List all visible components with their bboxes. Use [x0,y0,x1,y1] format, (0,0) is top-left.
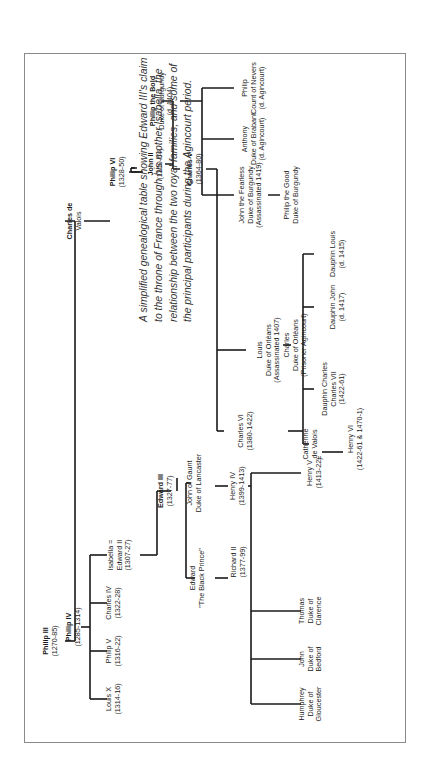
person-louis-x: Louis X (1314-16) [105,683,122,714]
person-charles-vi: Charles VI (1380-1422) [237,411,254,450]
person-philip-vi: Philip VI (1328-50) [109,156,126,187]
person-john-of-gaunt: John of Gaunt Duke of Lancaster [186,454,203,512]
person-john-the-fearless: John the Fearless Duke of Burgundy (Assa… [238,162,264,228]
genealogy-diagram: Philip III (1270-85) Philip IV (1285-131… [24,53,406,743]
person-catherine-de-valois: Catherine de Valois [302,428,319,459]
person-isabella-edward-ii: Isabella = Edward II (1307-27) [107,539,133,570]
person-philip-nevers: Philip Count of Nevers (d. Agincourt) [241,62,267,114]
person-charles-orleans: Charles Duke of Orléans (Prisoner Aginco… [283,313,309,377]
person-louis-orleans: Louis Duke of Orléans (Assassinated 1407… [256,317,282,383]
person-philip-the-good: Philip the Good Duke of Burgundy [283,166,300,224]
person-charles-de-valois: Charles de Valois [66,203,83,240]
person-black-prince: Edward "The Black Prince" [189,548,206,607]
person-dauphin-charles: Dauphin Charles Charles VII (1422-61) [321,362,347,416]
diagram-caption: A simplified genealogical table showing … [137,52,196,322]
person-anthony-brabant: Anthony Duke of Brabant (d. Agincourt) [241,113,267,165]
person-henry-iv: Henry IV (1399-1413) [229,466,246,505]
person-edward-iii: Edward III (1327-77) [157,474,174,508]
person-dauphin-louis: Dauphin Louis (d. 1415) [329,231,346,277]
person-john-bedford: John Duke of Bedford [298,646,324,671]
person-charles-iv: Charles IV (1322-28) [105,586,122,620]
person-humphrey-gloucester: Humphrey Duke of Gloucester [298,687,324,722]
person-thomas-clarence: Thomas Duke of Clarence [298,597,324,626]
person-philip-iv: Philip IV (1285-1314) [65,607,82,646]
person-philip-iii: Philip III (1270-85) [42,625,59,656]
person-philip-v: Philip V (1316-22) [105,635,122,666]
person-richard-ii: Richard II (1377-99) [230,546,247,577]
person-henry-v: Henry V (1413-22) [306,457,323,488]
person-henry-vi: Henry VI (1422-61 & 1470-1) [347,408,364,470]
person-dauphin-john: Dauphin John (d. 1417) [329,285,346,329]
